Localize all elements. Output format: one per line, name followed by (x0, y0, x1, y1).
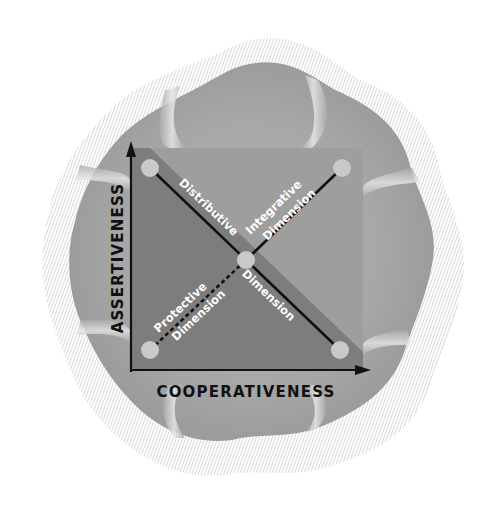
node-center (237, 251, 255, 269)
y-axis-label: ASSERTIVENESS (109, 183, 127, 334)
negotiation-diagram: COOPERATIVENESS ASSERTIVENESS Distributi… (0, 0, 489, 515)
node-bottom-left (141, 341, 159, 359)
x-axis-label: COOPERATIVENESS (156, 383, 335, 401)
node-top-left (141, 159, 159, 177)
node-bottom-right (331, 341, 349, 359)
node-top-right (333, 159, 351, 177)
